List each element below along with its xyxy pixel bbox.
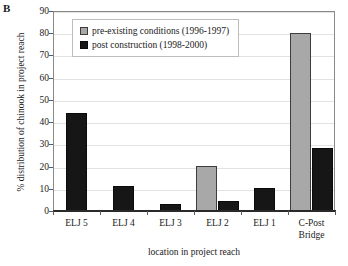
y-tick-label: 60 <box>3 73 49 83</box>
bar-c-post-bridge-pre-existing <box>290 33 311 211</box>
x-tick-mark <box>147 211 148 215</box>
x-axis-title: location in project reach <box>53 246 335 258</box>
legend-item-post-construction: post construction (1998-2000) <box>80 38 229 52</box>
x-tick-mark <box>335 211 336 215</box>
bar-elj-1-post-construction <box>254 188 275 211</box>
figure-panel-b: B % distribution of chinook in project r… <box>0 0 348 266</box>
y-tick-label: 10 <box>3 184 49 194</box>
bar-elj-5-post-construction <box>66 113 87 211</box>
y-tick-label: 50 <box>3 95 49 105</box>
y-tick-label: 40 <box>3 117 49 127</box>
x-tick-mark <box>288 211 289 215</box>
y-axis-ticks: 0102030405060708090 <box>0 11 49 211</box>
legend-swatch-icon-pre <box>80 27 88 35</box>
y-tick-label: 20 <box>3 162 49 172</box>
x-tick-label: ELJ 3 <box>147 218 194 230</box>
x-tick-label: ELJ 5 <box>53 218 100 230</box>
legend-swatch-icon-post <box>80 41 88 49</box>
y-tick-label: 0 <box>3 206 49 216</box>
bar-elj-2-pre-existing <box>196 166 217 211</box>
y-tick-label: 90 <box>3 6 49 16</box>
bar-elj-4-post-construction <box>113 186 134 211</box>
x-tick-mark <box>100 211 101 215</box>
chart-legend: pre-existing conditions (1996-1997) post… <box>72 19 239 57</box>
x-tick-label: C-Post Bridge <box>288 218 335 241</box>
bar-c-post-bridge-post-construction <box>312 148 333 211</box>
x-tick-label: ELJ 1 <box>241 218 288 230</box>
y-tick-label: 80 <box>3 28 49 38</box>
y-tick-label: 30 <box>3 139 49 149</box>
x-tick-mark <box>53 211 54 215</box>
legend-label-pre: pre-existing conditions (1996-1997) <box>92 26 229 37</box>
x-tick-label: ELJ 4 <box>100 218 147 230</box>
x-tick-mark <box>241 211 242 215</box>
x-tick-label: ELJ 2 <box>194 218 241 230</box>
x-tick-mark <box>194 211 195 215</box>
legend-item-pre-existing: pre-existing conditions (1996-1997) <box>80 24 229 38</box>
legend-label-post: post construction (1998-2000) <box>92 40 207 51</box>
y-tick-label: 70 <box>3 50 49 60</box>
